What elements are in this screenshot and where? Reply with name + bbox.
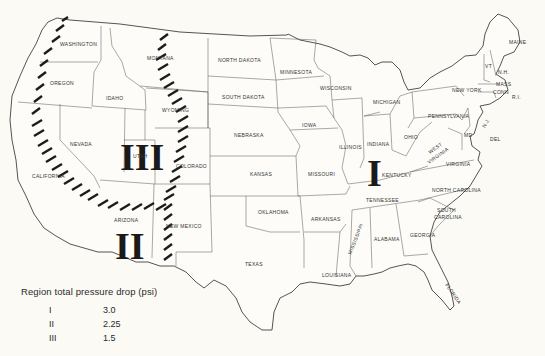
legend-row: II 2.25 xyxy=(21,317,181,331)
label-pennsylvania: PENNSYLVANIA xyxy=(428,113,470,119)
pressure-drop-region-map: III II I WASHINGTON OREGON CALIFORNIA NE… xyxy=(0,0,545,356)
label-alabama: ALABAMA xyxy=(374,236,400,242)
legend-value: 1.5 xyxy=(103,331,163,345)
label-north-dakota: NORTH DAKOTA xyxy=(218,57,261,63)
label-minnesota: MINNESOTA xyxy=(280,69,312,75)
legend-row: I 3.0 xyxy=(21,303,181,317)
label-texas: TEXAS xyxy=(245,261,263,267)
label-washington: WASHINGTON xyxy=(60,41,97,47)
legend-value: 2.25 xyxy=(103,317,163,331)
label-utah: UTAH xyxy=(133,153,148,159)
label-indiana: INDIANA xyxy=(367,141,390,147)
label-south-carolina-2: CAROLINA xyxy=(434,214,462,220)
label-new-mexico: NEW MEXICO xyxy=(166,223,202,229)
label-new-jersey: N.J. xyxy=(481,117,491,129)
label-iowa: IOWA xyxy=(302,122,317,128)
label-illinois: ILLINOIS xyxy=(339,144,362,150)
label-rhode-island: R.I. xyxy=(512,94,521,100)
label-wisconsin: WISCONSIN xyxy=(320,85,352,91)
legend-region: I xyxy=(21,303,103,317)
label-kentucky: KENTUCKY xyxy=(382,172,412,178)
label-wyoming: WYOMING xyxy=(162,107,189,113)
legend-region: II xyxy=(21,317,103,331)
label-maryland: MD xyxy=(464,132,472,138)
label-montana: MONTANA xyxy=(147,55,174,61)
label-california: CALIFORNIA xyxy=(32,173,65,179)
label-massachusetts: MASS xyxy=(496,81,512,87)
label-nevada: NEVADA xyxy=(70,141,92,147)
label-vermont: VT xyxy=(485,63,492,69)
label-arkansas: ARKANSAS xyxy=(311,216,341,222)
label-connecticut: CONN xyxy=(493,89,509,95)
label-georgia: GEORGIA xyxy=(410,232,436,238)
label-south-carolina-1: SOUTH xyxy=(437,207,456,213)
label-virginia: VIRGINIA xyxy=(446,161,471,167)
label-nebraska: NEBRASKA xyxy=(234,132,264,138)
label-oklahoma: OKLAHOMA xyxy=(258,209,289,215)
legend-row: III 1.5 xyxy=(21,331,181,345)
label-idaho: IDAHO xyxy=(106,95,123,101)
label-south-dakota: SOUTH DAKOTA xyxy=(222,94,265,100)
region-II-numeral: II xyxy=(115,225,145,267)
label-colorado: COLORADO xyxy=(176,163,207,169)
label-new-york: NEW YORK xyxy=(452,87,482,93)
label-tennessee: TENNESSEE xyxy=(366,197,399,203)
label-ohio: OHIO xyxy=(404,134,418,140)
label-louisiana: LOUISIANA xyxy=(322,272,352,278)
label-new-hampshire: N.H. xyxy=(498,69,509,75)
label-kansas: KANSAS xyxy=(250,171,272,177)
label-north-carolina: NORTH CAROLINA xyxy=(432,187,481,193)
label-michigan: MICHIGAN xyxy=(373,99,400,105)
legend-region: III xyxy=(21,331,103,345)
label-missouri: MISSOURI xyxy=(308,171,335,177)
legend-value: 3.0 xyxy=(103,303,163,317)
label-oregon: OREGON xyxy=(50,80,74,86)
label-delaware: DEL xyxy=(490,136,501,142)
label-maine: MAINE xyxy=(509,39,527,45)
legend-title: Region total pressure drop (psi) xyxy=(21,286,181,297)
label-arizona: ARIZONA xyxy=(114,217,139,223)
legend: Region total pressure drop (psi) I 3.0 I… xyxy=(21,286,181,345)
region-I-numeral: I xyxy=(367,152,382,194)
